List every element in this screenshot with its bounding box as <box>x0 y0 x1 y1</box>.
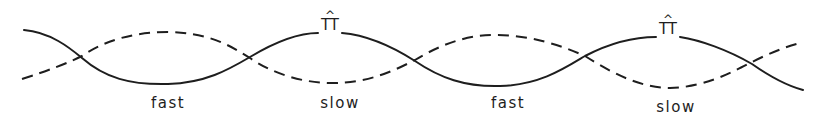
dashed-wave-curve <box>22 32 800 88</box>
region-label-slow-1: slow <box>320 94 359 112</box>
double-up-arrow-marker-2: ^ TT <box>659 14 677 37</box>
double-arrow-glyph: TT <box>321 18 339 33</box>
double-up-arrow-marker-1: ^ TT <box>321 10 339 33</box>
region-label-slow-2: slow <box>656 98 695 116</box>
double-arrow-glyph: TT <box>659 22 677 37</box>
region-label-fast-2: fast <box>491 94 525 112</box>
wave-diagram <box>0 0 824 126</box>
region-label-fast-1: fast <box>151 94 185 112</box>
